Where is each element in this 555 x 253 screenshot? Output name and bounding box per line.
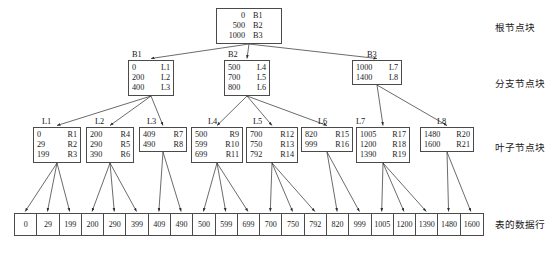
leaf-node-l4-key: 599 [195, 140, 212, 150]
data-row-cell: 750 [282, 214, 304, 235]
data-row-cell: 199 [60, 214, 82, 235]
root-node-block-entry: 0B1 [220, 11, 278, 21]
leaf-node-l7-entry: 1200R18 [360, 140, 406, 150]
branch-node-b1-entry: 200L2 [132, 73, 170, 83]
leaf-node-l8-pointer: R20 [456, 130, 470, 140]
leaf-node-l7-key: 1390 [360, 150, 381, 160]
leaf-node-l8-entry: 1600R21 [424, 140, 470, 150]
leaf-node-l2: 200R4290R5390R6 [86, 127, 134, 163]
leaf-node-l2-key: 290 [90, 140, 107, 150]
branch-node-b2-entry: 500L4 [228, 63, 266, 73]
branch-node-b1-entry: 400L3 [132, 83, 170, 93]
data-row-cell: 792 [305, 214, 327, 235]
leaf-node-l3-pointer: R7 [173, 130, 183, 140]
leaf-node-label-l1: L1 [42, 117, 51, 126]
branch-node-b2: 500L4700L5800L6 [224, 60, 270, 96]
edge-root-to-B3 [249, 44, 377, 59]
edge-L4-to-cell10 [217, 163, 248, 212]
side-label-root-block: 根节点块 [495, 22, 535, 33]
leaf-node-l7-key: 1200 [360, 140, 381, 150]
leaf-node-l2-entry: 290R5 [90, 140, 130, 150]
root-node-block-key: 500 [220, 21, 245, 31]
branch-node-b3-key: 1000 [356, 63, 377, 73]
leaf-node-l3-entry: 490R8 [143, 140, 183, 150]
leaf-node-l8-pointer: R21 [456, 140, 470, 150]
branch-node-b2-entry: 700L5 [228, 73, 266, 83]
branch-node-label-b3: B3 [367, 50, 377, 59]
btree-diagram-canvas: 0B1500B21000B30L1200L2400L3B1500L4700L58… [0, 0, 555, 253]
branch-node-b1-key: 400 [132, 83, 149, 93]
leaf-node-l4: 500R9599R10699R11 [191, 127, 243, 163]
edge-L3-to-cell7 [163, 152, 181, 212]
edge-L2-to-cell3 [92, 163, 110, 212]
branch-node-b3-key: 1400 [356, 73, 377, 83]
leaf-node-l8: 1480R201600R21 [420, 127, 474, 152]
branch-node-b1-pointer: L1 [161, 63, 170, 73]
branch-node-b1-pointer: L3 [161, 83, 170, 93]
data-row-cell: 0 [15, 214, 37, 235]
leaf-node-l1-pointer: R2 [67, 140, 77, 150]
leaf-node-l2-entry: 390R6 [90, 150, 130, 160]
branch-node-label-b2: B2 [228, 50, 238, 59]
leaf-node-l4-key: 500 [195, 130, 212, 140]
data-row-cell: 699 [238, 214, 260, 235]
leaf-node-l8-entry: 1480R20 [424, 130, 470, 140]
data-row-cell: 500 [193, 214, 215, 235]
branch-node-b2-entry: 800L6 [228, 83, 266, 93]
side-label-leaf-block: 叶子节点块 [495, 142, 545, 153]
branch-node-b1-pointer: L2 [161, 73, 170, 83]
leaf-node-l3-key: 409 [143, 130, 160, 140]
branch-node-b2-key: 800 [228, 83, 245, 93]
data-row-cell: 490 [171, 214, 193, 235]
leaf-node-l1-entry: 0R1 [37, 130, 77, 140]
edge-L1-to-cell0 [25, 163, 57, 212]
leaf-node-l4-pointer: R10 [225, 140, 239, 150]
leaf-node-label-l2: L2 [95, 117, 104, 126]
leaf-node-l1: 0R129R2199R3 [33, 127, 81, 163]
leaf-node-l1-key: 0 [37, 130, 46, 140]
edge-L6-to-cell14 [327, 152, 337, 212]
leaf-node-l7-pointer: R18 [392, 140, 406, 150]
branch-node-b2-pointer: L6 [257, 83, 266, 93]
leaf-node-l1-key: 199 [37, 150, 54, 160]
branch-node-b3: 1000L71400L8 [352, 60, 402, 85]
leaf-node-l6-entry: 999R16 [305, 140, 349, 150]
leaf-node-l7-entry: 1390R19 [360, 150, 406, 160]
leaf-node-l7-pointer: R17 [392, 130, 406, 140]
leaf-node-l1-entry: 199R3 [37, 150, 77, 160]
data-row-cell: 700 [260, 214, 282, 235]
branch-node-b2-pointer: L4 [257, 63, 266, 73]
root-node-block-pointer: B3 [245, 31, 278, 41]
leaf-node-label-l6: L6 [318, 117, 327, 126]
branch-node-label-b1: B1 [132, 50, 142, 59]
branch-node-b1: 0L1200L2400L3 [128, 60, 174, 96]
root-node-block-pointer: B2 [245, 21, 278, 31]
leaf-node-l2-pointer: R4 [120, 130, 130, 140]
data-row-cell: 1390 [416, 214, 438, 235]
leaf-node-l6: 820R15999R16 [301, 127, 353, 152]
leaf-node-l4-entry: 599R10 [195, 140, 239, 150]
side-label-branch-block: 分支节点块 [495, 78, 545, 89]
edge-L2-to-cell4 [110, 163, 114, 212]
edge-L4-to-cell9 [217, 163, 226, 212]
root-node-block-pointer: B1 [245, 11, 278, 21]
branch-node-b1-entry: 0L1 [132, 63, 170, 73]
leaf-node-l5-entry: 750R13 [250, 140, 294, 150]
data-row-cell: 409 [149, 214, 171, 235]
leaf-node-l5-key: 750 [250, 140, 267, 150]
leaf-node-l7: 1005R171200R181390R19 [356, 127, 410, 163]
leaf-node-l3-pointer: R8 [173, 140, 183, 150]
leaf-node-label-l5: L5 [253, 117, 262, 126]
leaf-node-l5-pointer: R13 [280, 140, 294, 150]
leaf-node-label-l8: L8 [437, 117, 446, 126]
leaf-node-l3-entry: 409R7 [143, 130, 183, 140]
edge-L7-to-cell16 [382, 163, 383, 212]
leaf-node-label-l7: L7 [356, 117, 365, 126]
data-row-cell: 1600 [461, 214, 483, 235]
data-row-cell: 599 [216, 214, 238, 235]
leaf-node-l5-key: 700 [250, 130, 267, 140]
leaf-node-l5-entry: 792R14 [250, 150, 294, 160]
leaf-node-l4-entry: 699R11 [195, 150, 239, 160]
leaf-node-l2-key: 200 [90, 130, 107, 140]
branch-node-b2-key: 700 [228, 73, 245, 83]
